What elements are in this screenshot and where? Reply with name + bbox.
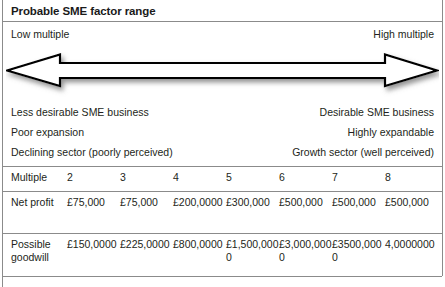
table-cell: 4 xyxy=(173,171,226,184)
descriptor-row-3: Declining sector (poorly perceived) Grow… xyxy=(11,146,434,158)
table-row: Multiple 2 3 4 5 6 7 8 xyxy=(11,171,439,184)
table-cell: £200,0000 xyxy=(173,196,226,209)
table-cell: £500,000 xyxy=(279,196,332,209)
table-cell: £500,000 xyxy=(332,196,385,209)
table-row: Net profit £75,000 £75,000 £200,0000 £30… xyxy=(11,196,439,209)
table-cell: 5 xyxy=(226,171,279,184)
table-cell: £150,0000 xyxy=(67,238,120,264)
scale-label-low: Low multiple xyxy=(11,28,69,40)
probable-sme-factor-range-figure: Probable SME factor range Low multiple H… xyxy=(0,0,445,287)
descriptor-1-left: Less desirable SME business xyxy=(11,106,149,118)
table-cell: £75,000 xyxy=(120,196,173,209)
row-label-possible-goodwill: Possible goodwill xyxy=(11,238,67,264)
table-cell: 4,0000000 xyxy=(385,238,438,264)
descriptor-1-right: Desirable SME business xyxy=(320,106,434,118)
header-divider xyxy=(3,21,442,22)
scale-labels-row: Low multiple High multiple xyxy=(11,28,434,40)
figure-header: Probable SME factor range xyxy=(3,0,442,21)
descriptor-row-2: Poor expansion Highly expandable xyxy=(11,126,434,138)
table-divider-above-multiple xyxy=(3,166,442,167)
table-divider-above-goodwill xyxy=(3,233,442,234)
table-cell: £300,000 xyxy=(226,196,279,209)
row-label-net-profit: Net profit xyxy=(11,196,67,209)
descriptor-row-1: Less desirable SME business Desirable SM… xyxy=(11,106,434,118)
scale-label-high: High multiple xyxy=(373,28,434,40)
table-cell: 2 xyxy=(67,171,120,184)
table-cell: 7 xyxy=(332,171,385,184)
table-cell: £3500,0000 xyxy=(332,238,385,264)
table-cell: 8 xyxy=(385,171,438,184)
double-headed-arrow-icon xyxy=(6,52,439,100)
table-divider-above-net-profit xyxy=(3,191,442,192)
descriptor-2-right: Highly expandable xyxy=(348,126,434,138)
table-cell: £3,000,0000 xyxy=(279,238,332,264)
table-cell: £800,0000 xyxy=(173,238,226,264)
descriptor-3-right: Growth sector (well perceived) xyxy=(292,146,434,158)
descriptor-3-left: Declining sector (poorly perceived) xyxy=(11,146,173,158)
figure-title: Probable SME factor range xyxy=(3,5,155,17)
table-cell: 3 xyxy=(120,171,173,184)
table-cell: £1,500,0000 xyxy=(226,238,279,264)
table-cell: 6 xyxy=(279,171,332,184)
table-cell: £225,0000 xyxy=(120,238,173,264)
table-row: Possible goodwill £150,0000 £225,0000 £8… xyxy=(11,238,439,264)
figure-left-border xyxy=(2,0,3,287)
figure-right-border xyxy=(442,0,443,276)
table-cell: £75,000 xyxy=(67,196,120,209)
descriptor-2-left: Poor expansion xyxy=(11,126,84,138)
table-cell: £500,000 xyxy=(385,196,438,209)
row-label-multiple: Multiple xyxy=(11,171,67,184)
figure-bottom-border xyxy=(3,276,442,277)
